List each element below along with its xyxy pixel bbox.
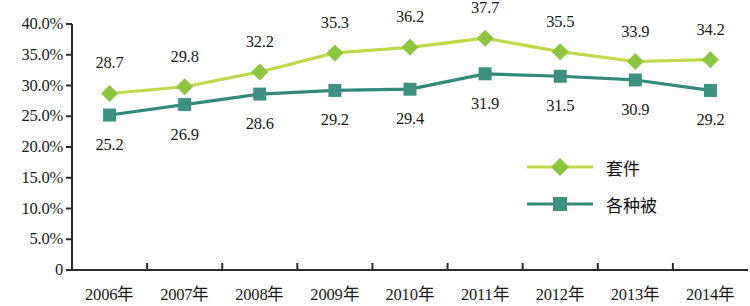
data-point-marker-square	[253, 88, 266, 101]
data-value-label: 28.7	[96, 53, 124, 73]
data-point-marker-square	[479, 67, 492, 80]
legend-marker-diamond	[551, 158, 569, 176]
x-axis-tick-label: 2014年	[686, 281, 735, 305]
data-value-label: 29.4	[396, 109, 424, 129]
data-point-marker-diamond	[402, 39, 419, 56]
x-axis-tick-label: 2009年	[310, 281, 359, 305]
y-axis-tick-label: 25.0%	[21, 106, 63, 126]
x-axis-ticks	[147, 263, 673, 270]
data-point-marker-diamond	[101, 85, 118, 102]
data-value-label: 35.3	[321, 13, 349, 33]
y-axis-tick-label: 40.0%	[21, 14, 63, 34]
data-value-label: 36.2	[396, 7, 424, 27]
y-axis-tick-label: 0	[55, 260, 63, 280]
data-value-label: 30.9	[621, 100, 649, 120]
x-axis-tick-label: 2011年	[461, 281, 509, 305]
data-point-marker-diamond	[552, 43, 569, 60]
data-value-label: 29.2	[321, 110, 349, 130]
data-point-marker-square	[178, 98, 191, 111]
data-point-marker-diamond	[251, 63, 268, 80]
legend-marker-square	[553, 197, 567, 211]
legend-item-label: 各种被	[606, 192, 657, 217]
y-axis-tick-label: 10.0%	[21, 199, 63, 219]
x-axis-tick-label: 2013年	[611, 281, 660, 305]
data-point-marker-square	[554, 70, 567, 83]
data-point-marker-diamond	[326, 44, 343, 61]
data-point-marker-square	[704, 84, 717, 97]
data-value-label: 25.2	[96, 135, 124, 155]
data-value-label: 29.8	[171, 47, 199, 67]
data-point-marker-square	[404, 83, 417, 96]
data-point-marker-square	[629, 73, 642, 86]
x-axis-tick-label: 2012年	[536, 281, 585, 305]
x-axis-tick-label: 2008年	[235, 281, 284, 305]
data-value-label: 31.5	[546, 96, 574, 116]
data-value-label: 33.9	[621, 22, 649, 42]
y-axis-tick-label: 30.0%	[21, 76, 63, 96]
legend-item-label: 套件	[606, 155, 640, 180]
y-axis-tick-label: 5.0%	[29, 229, 63, 249]
data-point-marker-diamond	[702, 51, 719, 68]
data-point-marker-diamond	[477, 30, 494, 47]
data-value-label: 37.7	[471, 0, 499, 18]
y-axis-tick-label: 15.0%	[21, 168, 63, 188]
y-axis-tick-label: 20.0%	[21, 137, 63, 157]
x-axis-tick-label: 2006年	[85, 281, 134, 305]
data-point-marker-square	[328, 84, 341, 97]
data-point-marker-diamond	[176, 78, 193, 95]
data-value-label: 31.9	[471, 94, 499, 114]
data-value-label: 28.6	[246, 114, 274, 134]
x-axis-tick-label: 2007年	[160, 281, 209, 305]
line-chart: 05.0%10.0%15.0%20.0%25.0%30.0%35.0%40.0%…	[0, 0, 750, 306]
data-value-label: 32.2	[246, 32, 274, 52]
data-value-label: 34.2	[696, 20, 724, 40]
data-value-label: 35.5	[546, 12, 574, 32]
data-point-marker-square	[103, 109, 116, 122]
data-value-label: 29.2	[696, 110, 724, 130]
data-point-marker-diamond	[627, 53, 644, 70]
legend-markers-group	[527, 158, 593, 211]
data-value-label: 26.9	[171, 125, 199, 145]
y-axis-tick-label: 35.0%	[21, 45, 63, 65]
x-axis-tick-label: 2010年	[385, 281, 434, 305]
